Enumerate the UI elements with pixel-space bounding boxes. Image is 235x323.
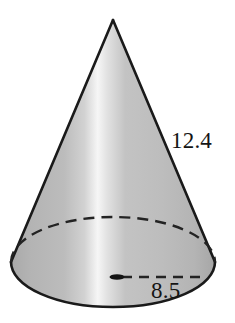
cone-diagram xyxy=(0,0,235,323)
cone-figure-container: 12.4 8.5 xyxy=(0,0,235,323)
radius-label: 8.5 xyxy=(151,279,180,302)
slant-height-label: 12.4 xyxy=(171,129,212,152)
cone-lateral-surface xyxy=(11,20,215,307)
cone-center-point-marker xyxy=(110,274,125,280)
